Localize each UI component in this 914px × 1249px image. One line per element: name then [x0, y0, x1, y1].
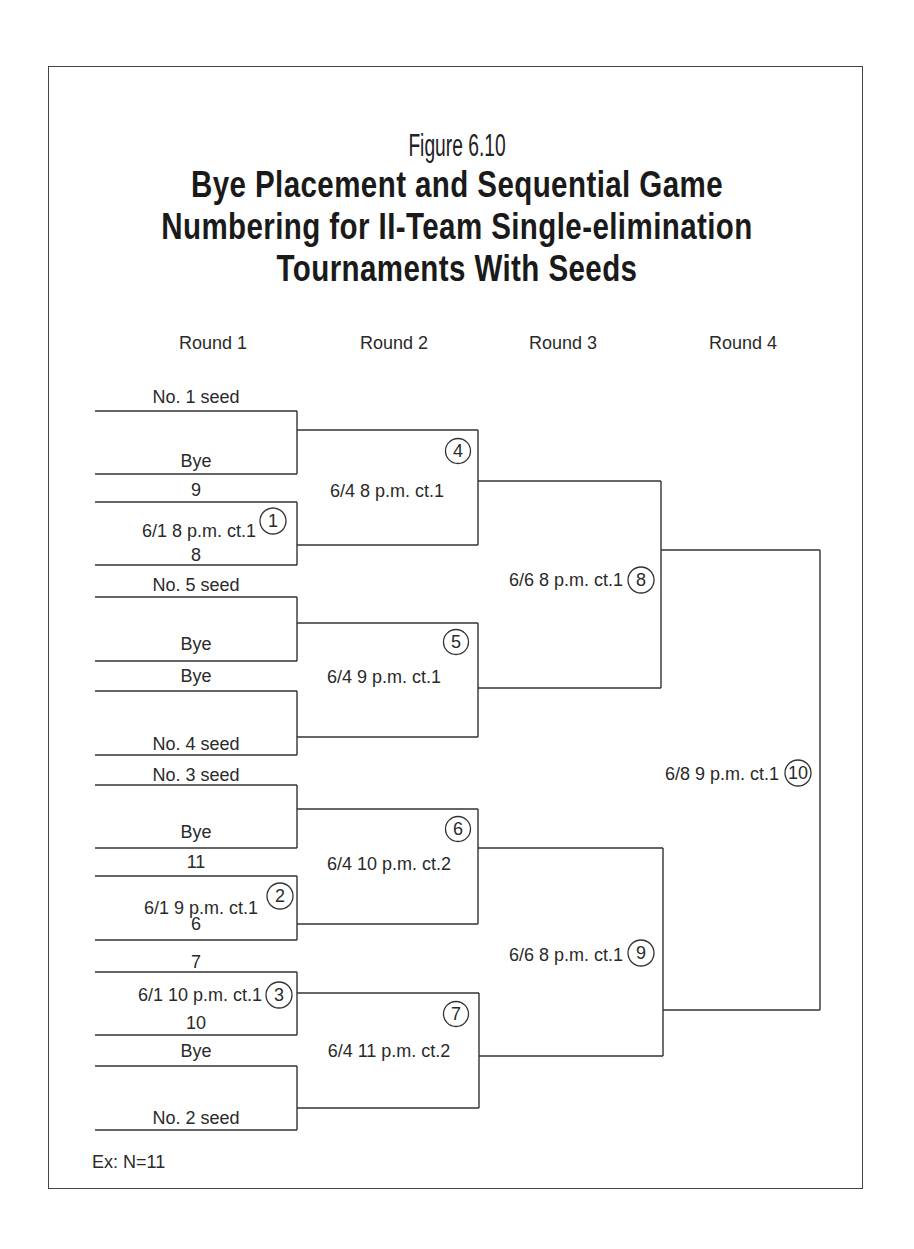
- slot-no2-seed: No. 2 seed: [152, 1108, 239, 1128]
- slot-team-9: 9: [191, 480, 201, 500]
- slot-team-11: 11: [187, 852, 206, 872]
- game-8-schedule: 6/6 8 p.m. ct.1: [509, 570, 623, 590]
- game-2-schedule: 6/1 9 p.m. ct.1: [144, 898, 258, 918]
- game-9: 6/6 8 p.m. ct.1 9: [509, 940, 654, 966]
- game-5-schedule: 6/4 9 p.m. ct.1: [327, 667, 441, 687]
- game-3-number: 3: [274, 985, 284, 1005]
- slot-bye: Bye: [180, 666, 211, 686]
- slot-no4-seed: No. 4 seed: [152, 734, 239, 754]
- game-5: 6/4 9 p.m. ct.1 5: [327, 630, 469, 688]
- game-3-schedule: 6/1 10 p.m. ct.1: [138, 985, 262, 1005]
- round-1-slots: No. 1 seed Bye 9 8 No. 5 seed Bye Bye No…: [152, 387, 239, 1128]
- round-3-header: Round 3: [529, 333, 597, 353]
- game-1: 6/1 8 p.m. ct.1 1: [142, 508, 286, 541]
- slot-bye: Bye: [180, 634, 211, 654]
- game-6: 6/4 10 p.m. ct.2 6: [327, 817, 471, 875]
- game-8: 6/6 8 p.m. ct.1 8: [509, 567, 654, 593]
- game-7: 6/4 11 p.m. ct.2 7: [328, 1002, 469, 1062]
- round-4-header: Round 4: [709, 333, 777, 353]
- game-9-number: 9: [636, 943, 646, 963]
- slot-bye: Bye: [180, 822, 211, 842]
- game-1-schedule: 6/1 8 p.m. ct.1: [142, 521, 256, 541]
- game-10-schedule: 6/8 9 p.m. ct.1: [665, 764, 779, 784]
- slot-bye: Bye: [180, 1041, 211, 1061]
- slot-team-8: 8: [191, 545, 201, 565]
- slot-no5-seed: No. 5 seed: [152, 575, 239, 595]
- slot-no3-seed: No. 3 seed: [152, 765, 239, 785]
- round-2-header: Round 2: [360, 333, 428, 353]
- round-3-lines: [478, 481, 663, 1056]
- game-3: 6/1 10 p.m. ct.1 3: [138, 982, 292, 1008]
- game-2-number: 2: [275, 886, 285, 906]
- slot-team-7: 7: [191, 952, 201, 972]
- slot-team-10: 10: [186, 1013, 206, 1033]
- game-4-number: 4: [453, 441, 463, 461]
- game-5-number: 5: [451, 632, 461, 652]
- game-10: 6/8 9 p.m. ct.1 10: [665, 760, 811, 786]
- game-1-number: 1: [268, 511, 278, 531]
- slot-bye: Bye: [180, 451, 211, 471]
- round-1-header: Round 1: [179, 333, 247, 353]
- game-6-schedule: 6/4 10 p.m. ct.2: [327, 854, 451, 874]
- game-10-number: 10: [788, 763, 808, 783]
- game-7-number: 7: [451, 1004, 461, 1024]
- game-4: 6/4 8 p.m. ct.1 4: [330, 439, 471, 502]
- game-8-number: 8: [636, 570, 646, 590]
- tournament-bracket: Round 1 Round 2 Round 3 Round 4: [0, 0, 914, 1249]
- game-7-schedule: 6/4 11 p.m. ct.2: [328, 1041, 451, 1061]
- game-6-number: 6: [453, 819, 463, 839]
- game-2: 6/1 9 p.m. ct.1 2: [144, 883, 293, 918]
- game-9-schedule: 6/6 8 p.m. ct.1: [509, 945, 623, 965]
- game-4-schedule: 6/4 8 p.m. ct.1: [330, 481, 444, 501]
- slot-no1-seed: No. 1 seed: [152, 387, 239, 407]
- footnote: Ex: N=11: [92, 1152, 165, 1173]
